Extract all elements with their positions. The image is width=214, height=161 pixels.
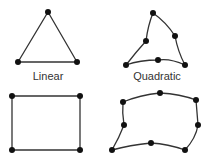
node-dot [182, 62, 188, 68]
node-dot [150, 10, 156, 16]
linear-label: Linear [33, 70, 64, 82]
node-dot [182, 147, 188, 153]
node-dot [193, 97, 199, 103]
node-dot [77, 93, 83, 99]
node-dot [9, 93, 15, 99]
node-dot [74, 59, 80, 65]
node-dot [148, 140, 154, 146]
node-dot [9, 147, 15, 153]
node-dot [143, 38, 149, 44]
quadratic-triangle [123, 10, 188, 68]
node-dot [195, 122, 201, 128]
node-dot [15, 59, 21, 65]
node-dot [120, 99, 126, 105]
node-dot [45, 9, 51, 15]
quadratic-label: Quadratic [133, 70, 181, 82]
node-dot [155, 57, 161, 63]
node-dot [157, 90, 163, 96]
linear-triangle-edge [18, 12, 77, 62]
node-dot [109, 147, 115, 153]
node-dot [121, 122, 127, 128]
linear-quadrilateral-edge [12, 96, 80, 150]
linear-quadrilateral [9, 93, 83, 153]
node-dot [172, 33, 178, 39]
node-dot [77, 147, 83, 153]
node-dot [123, 62, 129, 68]
linear-triangle [15, 9, 80, 65]
quadratic-triangle-edge [126, 13, 185, 65]
quadratic-quadrilateral [109, 90, 201, 153]
